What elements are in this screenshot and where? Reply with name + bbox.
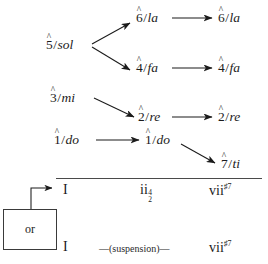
solfege-syllable: mi bbox=[62, 90, 76, 105]
caret-icon: ^ bbox=[55, 126, 59, 137]
solfege-syllable: fa bbox=[148, 60, 159, 75]
degree-number: ^4 bbox=[136, 61, 143, 75]
scale-degree-ti-right: ^7/ti bbox=[221, 157, 240, 171]
solfege-syllable: la bbox=[230, 10, 241, 25]
arrow-do-to-ti bbox=[181, 144, 215, 163]
figured-bass: 42 bbox=[148, 189, 152, 203]
degree-number: ^7 bbox=[221, 157, 228, 171]
degree-number: ^1 bbox=[54, 133, 61, 147]
degree-number: ^6 bbox=[218, 11, 225, 25]
degree-number: ^4 bbox=[218, 61, 225, 75]
degree-number: ^5 bbox=[46, 38, 53, 52]
degree-number: ^2 bbox=[138, 110, 145, 124]
degree-number: ^1 bbox=[145, 133, 152, 147]
roman-numeral-predominant: ii42 bbox=[140, 183, 152, 203]
caret-icon: ^ bbox=[222, 150, 226, 161]
staff-divider-rule bbox=[56, 178, 262, 179]
scale-degree-do-left: ^1/do bbox=[54, 133, 79, 147]
tonic-label: I bbox=[63, 239, 68, 254]
solfege-syllable: re bbox=[150, 109, 161, 124]
degree-number: ^2 bbox=[218, 110, 225, 124]
caret-icon: ^ bbox=[219, 4, 223, 15]
caret-icon: ^ bbox=[47, 31, 51, 42]
or-alternative-box: or bbox=[3, 209, 57, 250]
degree-number: ^3 bbox=[50, 91, 57, 105]
scale-degree-re-middle: ^2/re bbox=[138, 110, 160, 124]
scale-degree-la-middle: ^6/la bbox=[136, 11, 158, 25]
scale-degree-do-middle: ^1/do bbox=[145, 133, 170, 147]
caret-icon: ^ bbox=[219, 54, 223, 65]
voice-leading-diagram: ^5/sol ^6/la ^6/la ^4/fa ^4/fa ^3/mi ^2/… bbox=[0, 0, 268, 264]
scale-degree-fa-middle: ^4/fa bbox=[136, 61, 158, 75]
roman-numeral-tonic-top: I bbox=[63, 183, 68, 197]
scale-degree-sol: ^5/sol bbox=[46, 38, 73, 52]
figured-bass-lower: 2 bbox=[148, 196, 152, 203]
scale-degree-re-right: ^2/re bbox=[218, 110, 240, 124]
scale-degree-mi: ^3/mi bbox=[50, 91, 75, 105]
solfege-syllable: re bbox=[230, 109, 241, 124]
caret-icon: ^ bbox=[137, 4, 141, 15]
caret-icon: ^ bbox=[137, 54, 141, 65]
or-label: or bbox=[25, 222, 35, 237]
solfege-syllable: fa bbox=[230, 60, 241, 75]
suspension-label: —(suspension)— bbox=[99, 243, 170, 254]
roman-numeral-leading-tone-bottom: vii♯7 bbox=[209, 240, 231, 255]
tonic-label: I bbox=[63, 182, 68, 197]
caret-icon: ^ bbox=[146, 126, 150, 137]
solfege-syllable: sol bbox=[58, 37, 74, 52]
arrow-sol-to-fa bbox=[92, 47, 130, 70]
chord-quality-superscript: ♯7 bbox=[224, 239, 232, 248]
solfege-syllable: do bbox=[157, 132, 171, 147]
solfege-syllable: la bbox=[148, 10, 159, 25]
caret-icon: ^ bbox=[51, 84, 55, 95]
degree-number: ^6 bbox=[136, 11, 143, 25]
roman-numeral-leading-tone-top: vii♯7 bbox=[209, 183, 231, 198]
solfege-syllable: do bbox=[66, 132, 80, 147]
caret-icon: ^ bbox=[139, 103, 143, 114]
scale-degree-fa-right: ^4/fa bbox=[218, 61, 240, 75]
caret-icon: ^ bbox=[219, 103, 223, 114]
arrow-sol-to-la bbox=[92, 23, 130, 44]
numeral-label: ii bbox=[140, 182, 148, 197]
arrow-mi-to-re bbox=[94, 98, 134, 117]
numeral-label: vii bbox=[209, 240, 224, 255]
scale-degree-la-right: ^6/la bbox=[218, 11, 240, 25]
roman-numeral-tonic-bottom: I bbox=[63, 240, 68, 254]
chord-quality-superscript: ♯7 bbox=[224, 182, 232, 191]
solfege-syllable: ti bbox=[233, 156, 241, 171]
numeral-label: vii bbox=[209, 183, 224, 198]
